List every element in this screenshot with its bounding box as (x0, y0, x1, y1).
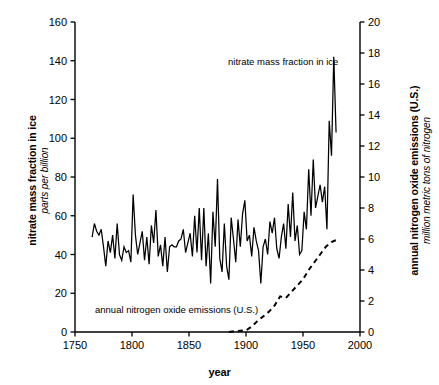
series-line-2 (229, 241, 337, 332)
y-axis-left-tick-label: 60 (55, 210, 67, 222)
x-axis-tick-label: 1850 (177, 339, 201, 351)
y-axis-right-tick-label: 16 (368, 78, 380, 90)
x-axis-tick-label: 1800 (120, 339, 144, 351)
y-axis-left-title: nitrate mass fraction in ice parts per b… (26, 81, 51, 281)
x-axis-tick-label: 1950 (291, 339, 315, 351)
y-axis-right-tick-label: 2 (368, 295, 374, 307)
y-axis-right-tick-label: 10 (368, 171, 380, 183)
y-axis-left-tick-label: 140 (49, 55, 67, 67)
y-axis-right-title-main: annual nitrogen oxide emissions (U.S.) (408, 86, 420, 276)
y-axis-right-tick-label: 14 (368, 109, 380, 121)
y-axis-right-tick-label: 8 (368, 202, 374, 214)
y-axis-right-tick-label: 0 (368, 326, 374, 338)
y-axis-left-tick-label: 160 (49, 16, 67, 28)
y-axis-left-title-main: nitrate mass fraction in ice (26, 115, 38, 245)
annotation-emissions-series: annual nitrogen oxide emissions (U.S.) (95, 304, 258, 315)
y-axis-right-tick-label: 6 (368, 233, 374, 245)
y-axis-left-title-units: parts per billion (39, 147, 50, 213)
y-axis-left-tick-label: 80 (55, 171, 67, 183)
y-axis-left-tick-label: 120 (49, 94, 67, 106)
x-axis-tick-label: 2000 (348, 339, 372, 351)
y-axis-right-title: annual nitrogen oxide emissions (U.S.) m… (408, 56, 433, 306)
y-axis-right-tick-label: 18 (368, 47, 380, 59)
annotation-nitrate-series: nitrate mass fraction in ice (228, 56, 338, 67)
y-axis-left-tick-label: 20 (55, 287, 67, 299)
y-axis-right-tick-label: 4 (368, 264, 374, 276)
y-axis-right-title-units: million metric tons of nitrogen (421, 117, 432, 244)
series-line-1 (92, 57, 336, 284)
y-axis-left-tick-label: 40 (55, 249, 67, 261)
y-axis-right-tick-label: 20 (368, 16, 380, 28)
x-axis-tick-label: 1750 (63, 339, 87, 351)
y-axis-right-tick-label: 12 (368, 140, 380, 152)
x-axis-title: year (0, 366, 439, 378)
x-axis-tick-label: 1900 (234, 339, 258, 351)
y-axis-left-tick-label: 0 (61, 326, 67, 338)
y-axis-left-tick-label: 100 (49, 132, 67, 144)
chart-plot-area: 0204060801001201401600246810121416182017… (0, 0, 439, 385)
chart-figure: 0204060801001201401600246810121416182017… (0, 0, 439, 385)
